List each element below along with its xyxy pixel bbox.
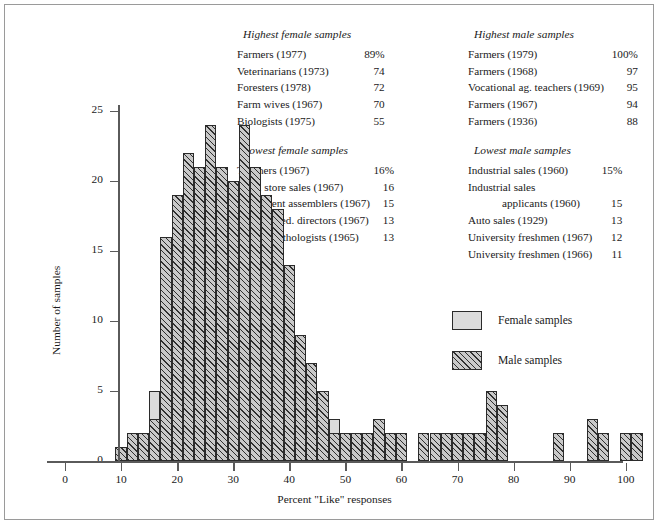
x-axis-tick-label: 70 [438, 473, 478, 485]
male-bar [216, 167, 227, 461]
list-item: Biologists (1975)55 [237, 114, 385, 131]
y-axis-tick-label: 0 [67, 453, 103, 465]
x-axis-tick [514, 463, 515, 471]
x-axis-tick [458, 463, 459, 471]
list-item: Farmers (1979)100% [468, 47, 638, 64]
male-bar [306, 363, 317, 461]
male-bar [228, 181, 239, 461]
y-axis-line [118, 105, 120, 463]
x-axis-tick [570, 463, 571, 471]
list-item: Farm wives (1967)70 [237, 97, 385, 114]
male-bar [396, 433, 407, 461]
male-bar [463, 433, 474, 461]
y-axis-tick-label: 20 [67, 173, 103, 185]
male-bar [620, 433, 631, 461]
sample-name: Foresters (1978) [237, 80, 329, 97]
list-item: Industrial sales [468, 180, 622, 197]
y-axis-tick-label: 5 [67, 383, 103, 395]
male-bar [317, 391, 328, 461]
sample-value: 70 [329, 97, 385, 114]
sample-value: 15 [592, 196, 622, 213]
male-bar [441, 433, 452, 461]
sample-name: Farmers (1936) [468, 114, 604, 131]
sample-name: Farmers (1968) [468, 64, 604, 81]
sample-name: Farmers (1977) [237, 47, 329, 64]
list-item: Auto sales (1929)13 [468, 213, 622, 230]
sample-name: Auto sales (1929) [468, 213, 592, 230]
male-bar [160, 237, 171, 461]
male-bar [373, 419, 384, 461]
sample-value: 13 [592, 213, 622, 230]
male-bar [418, 433, 429, 461]
sample-value: 88 [604, 114, 638, 131]
x-axis-tick-label: 90 [550, 473, 590, 485]
x-axis-tick-label: 60 [381, 473, 421, 485]
male-bar [127, 433, 138, 461]
sample-value: 97 [604, 64, 638, 81]
sample-value: 11 [592, 247, 622, 264]
male-bar [631, 433, 642, 461]
figure-frame: 01020304050607080901000510152025Percent … [4, 4, 654, 520]
male-bar [452, 433, 463, 461]
male-bar [284, 265, 295, 461]
legend-label-male: Male samples [498, 354, 562, 367]
sample-value: 16 [370, 180, 394, 197]
x-axis-tick-label: 0 [45, 473, 85, 485]
panel-highest-male: Highest male samples Farmers (1979)100%F… [468, 27, 638, 131]
sample-value: 15% [592, 163, 622, 180]
sample-value: 89% [329, 47, 385, 64]
male-bar [598, 433, 609, 461]
x-axis-line [47, 461, 623, 463]
male-bar [329, 433, 340, 461]
sample-value: 74 [329, 64, 385, 81]
list-item: Veterinarians (1973)74 [237, 64, 385, 81]
x-axis-tick [345, 463, 346, 471]
sample-name: Farm wives (1967) [237, 97, 329, 114]
sample-value: 13 [370, 213, 394, 230]
sample-name: University freshmen (1966) [468, 247, 592, 264]
sample-name: Vocational ag. teachers (1969) [468, 80, 604, 97]
panel-list: Industrial sales (1960)15%Industrial sal… [468, 163, 622, 264]
male-bar [205, 125, 216, 461]
panel-title: Lowest male samples [468, 143, 622, 159]
male-bar [149, 419, 160, 461]
panel-title: Highest male samples [468, 27, 638, 43]
male-bar [497, 405, 508, 461]
y-axis-tick [110, 181, 119, 182]
y-axis-tick-label: 25 [67, 103, 103, 115]
list-item: University freshmen (1966)11 [468, 247, 622, 264]
sample-name: Veterinarians (1973) [237, 64, 329, 81]
sample-value: 100% [604, 47, 638, 64]
sample-name: applicants (1960) [468, 196, 592, 213]
sample-name: Farmers (1979) [468, 47, 604, 64]
y-axis-tick [110, 251, 119, 252]
male-bar [172, 195, 183, 461]
list-item: Vocational ag. teachers (1969)95 [468, 80, 638, 97]
legend-item-female: Female samples [452, 311, 572, 330]
sample-value: 55 [329, 114, 385, 131]
male-bar [553, 433, 564, 461]
x-axis-tick-label: 50 [325, 473, 365, 485]
sample-value: 15 [370, 196, 394, 213]
legend-item-male: Male samples [452, 351, 572, 370]
x-axis-tick-label: 100 [606, 473, 646, 485]
male-bar [340, 433, 351, 461]
x-axis-tick [626, 463, 627, 471]
male-bar [486, 391, 497, 461]
x-axis-tick [177, 463, 178, 471]
male-bar [587, 419, 598, 461]
male-bar [385, 433, 396, 461]
x-axis-tick [121, 463, 122, 471]
list-item: Farmers (1967)94 [468, 97, 638, 114]
sample-value: 95 [604, 80, 638, 97]
male-bar [138, 433, 149, 461]
male-bar [362, 433, 373, 461]
list-item: Industrial sales (1960)15% [468, 163, 622, 180]
sample-name: Industrial sales [468, 180, 592, 197]
y-axis-tick [110, 111, 119, 112]
male-bar [194, 167, 205, 461]
x-axis-tick-label: 80 [494, 473, 534, 485]
x-axis-tick [289, 463, 290, 471]
sample-value: 12 [592, 230, 622, 247]
y-axis-title: Number of samples [50, 266, 62, 355]
